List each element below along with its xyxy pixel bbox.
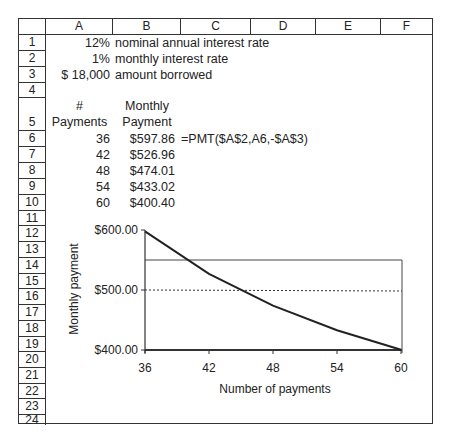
x-label-60: 60 [394, 361, 408, 375]
x-axis-title: Number of payments [219, 382, 330, 396]
x-label-48: 48 [266, 361, 280, 375]
payment-chart[interactable]: $600.00 $500.00 $400.00 36 42 48 54 60 N… [0, 0, 451, 443]
x-label-54: 54 [330, 361, 344, 375]
x-label-42: 42 [202, 361, 216, 375]
y-axis-title: Monthly payment [67, 243, 81, 335]
y-label-400: $400.00 [95, 343, 139, 357]
y-label-500: $500.00 [95, 283, 139, 297]
reference-line-500 [145, 290, 402, 291]
x-label-36: 36 [138, 361, 152, 375]
y-label-600: $600.00 [95, 223, 139, 237]
